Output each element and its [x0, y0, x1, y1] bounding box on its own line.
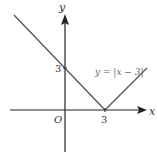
y-tick-label: 3 [55, 63, 61, 74]
origin-label: O [54, 114, 62, 125]
x-tick-label: 3 [101, 114, 107, 125]
function-graph-line [14, 15, 147, 110]
graph-canvas: y x O 3 3 y = |x − 3| [0, 0, 157, 159]
function-equation-label: y = |x − 3| [94, 67, 143, 78]
x-axis-label: x [149, 105, 156, 118]
y-axis-label: y [58, 1, 66, 14]
